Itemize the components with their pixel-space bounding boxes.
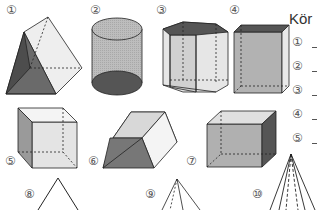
answer-line-2[interactable]	[312, 71, 317, 72]
triangular-prism-icon	[6, 17, 82, 94]
answer-number: ②	[292, 59, 303, 73]
trapezoidal-prism-icon	[103, 112, 177, 168]
worksheet-title: Kör	[289, 10, 312, 27]
answer-number: ①	[292, 35, 303, 49]
hexagonal-prism-icon	[163, 22, 228, 92]
cuboid-tall-icon	[234, 25, 289, 93]
solids-illustration	[0, 0, 317, 210]
answer-line-3[interactable]	[312, 95, 317, 96]
answer-line-5[interactable]	[312, 143, 317, 144]
tall-pyramid-icon	[270, 154, 315, 210]
answer-number: ③	[292, 83, 303, 97]
cuboid-wide-icon	[207, 111, 276, 167]
answer-number: ④	[292, 107, 303, 121]
pyramid-icon	[162, 179, 200, 210]
answer-number: ⑤	[292, 131, 303, 145]
cylinder-icon	[92, 18, 142, 95]
answer-line-1[interactable]	[312, 47, 317, 48]
answer-line-4[interactable]	[312, 119, 317, 120]
cube-icon	[18, 108, 77, 168]
cone-icon	[38, 178, 78, 210]
